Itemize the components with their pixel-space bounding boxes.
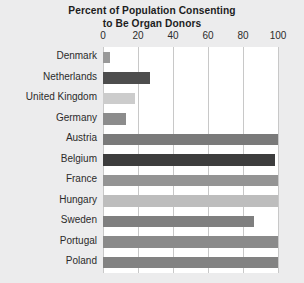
bar-row: Netherlands	[0, 68, 304, 89]
bar-netherlands	[103, 72, 150, 84]
category-label-hungary: Hungary	[59, 194, 97, 206]
x-tick-label-80: 80	[237, 30, 248, 41]
category-label-portugal: Portugal	[60, 235, 97, 247]
bar-row: Austria	[0, 129, 304, 150]
category-label-belgium: Belgium	[61, 153, 97, 165]
bar-sweden	[103, 216, 254, 228]
x-tick-label-0: 0	[100, 30, 106, 41]
x-tick-label-60: 60	[202, 30, 213, 41]
bar-hungary	[103, 195, 278, 207]
bar-row: Germany	[0, 109, 304, 130]
organ-donor-bar-chart: Percent of Population Consenting to Be O…	[0, 0, 304, 283]
bar-united-kingdom	[103, 93, 135, 105]
category-label-denmark: Denmark	[56, 50, 97, 62]
bar-row: Sweden	[0, 211, 304, 232]
bar-belgium	[103, 154, 275, 166]
x-tick-label-40: 40	[167, 30, 178, 41]
chart-title-line-2: to Be Organ Donors	[0, 18, 304, 31]
bar-germany	[103, 113, 126, 125]
category-label-united-kingdom: United Kingdom	[26, 91, 97, 103]
chart-title: Percent of Population Consenting to Be O…	[0, 5, 304, 30]
bar-row: Hungary	[0, 191, 304, 212]
bar-france	[103, 175, 278, 187]
bar-row: Poland	[0, 252, 304, 273]
bar-row: Denmark	[0, 47, 304, 68]
bar-row: France	[0, 170, 304, 191]
bar-denmark	[103, 52, 110, 64]
category-label-austria: Austria	[66, 132, 97, 144]
bar-row: Belgium	[0, 150, 304, 171]
bar-portugal	[103, 236, 278, 248]
category-label-poland: Poland	[66, 255, 97, 267]
category-label-netherlands: Netherlands	[43, 71, 97, 83]
bar-row: Portugal	[0, 232, 304, 253]
x-tick-label-100: 100	[270, 30, 287, 41]
category-label-sweden: Sweden	[61, 214, 97, 226]
chart-title-line-1: Percent of Population Consenting	[68, 5, 235, 16]
bar-row: United Kingdom	[0, 88, 304, 109]
x-axis-tick-labels: 020406080100	[0, 30, 304, 44]
bar-rows: DenmarkNetherlandsUnited KingdomGermanyA…	[0, 47, 304, 273]
category-label-france: France	[66, 173, 97, 185]
bar-poland	[103, 257, 278, 269]
bar-austria	[103, 134, 278, 146]
x-tick-label-20: 20	[132, 30, 143, 41]
category-label-germany: Germany	[56, 112, 97, 124]
